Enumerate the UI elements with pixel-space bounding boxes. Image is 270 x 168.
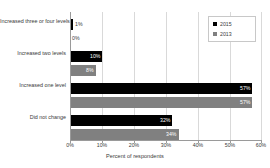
bar-row-2015: 10% <box>70 51 262 62</box>
bar-2013-3 <box>70 129 179 140</box>
bar-2015-2 <box>70 83 252 94</box>
category-label-0: Increased three or four levels <box>0 18 66 24</box>
x-tick-label-0: 0% <box>66 142 74 148</box>
bar-row-2013: 34% <box>70 129 262 140</box>
y-axis-line <box>70 12 71 140</box>
bar-row-2015: 32% <box>70 115 262 126</box>
bar-row-2013: 8% <box>70 65 262 76</box>
bar-value-2015-2: 57% <box>240 83 250 94</box>
bar-value-2013-0: 0% <box>72 33 80 44</box>
legend-label-2015: 2015 <box>220 20 232 28</box>
x-tick-label-2: 20% <box>129 142 139 148</box>
x-tick-label-1: 10% <box>97 142 107 148</box>
x-axis-title: Percent of respondents <box>0 153 270 159</box>
x-tick-label-3: 30% <box>161 142 171 148</box>
bar-group-1: 10% 8% <box>70 48 262 80</box>
legend-item-2013[interactable]: 2013 <box>213 30 251 38</box>
legend: 2015 2013 <box>208 16 256 42</box>
category-label-2: Increased one level <box>0 82 66 88</box>
legend-swatch-icon-2015 <box>213 22 217 26</box>
bar-chart: 1% 0% 10% 8% 57% <box>0 0 270 168</box>
bar-value-2013-2: 57% <box>240 97 250 108</box>
category-label-3: Did not change <box>0 114 66 120</box>
legend-item-2015[interactable]: 2015 <box>213 20 251 28</box>
bar-2013-2 <box>70 97 252 108</box>
x-tick-label-4: 40% <box>193 142 203 148</box>
bar-value-2015-0: 1% <box>75 19 83 30</box>
legend-label-2013: 2013 <box>220 30 232 38</box>
bar-value-2013-1: 8% <box>86 65 94 76</box>
bar-2015-3 <box>70 115 172 126</box>
bar-row-2013: 57% <box>70 97 262 108</box>
x-tick-label-5: 50% <box>225 142 235 148</box>
bar-value-2015-1: 10% <box>90 51 100 62</box>
category-label-1: Increased two levels <box>0 50 66 56</box>
bar-group-2: 57% 57% <box>70 80 262 112</box>
bar-value-2013-3: 34% <box>166 129 176 140</box>
bar-row-2015: 57% <box>70 83 262 94</box>
bar-value-2015-3: 32% <box>160 115 170 126</box>
legend-swatch-icon-2013 <box>213 32 217 36</box>
x-tick-label-6: 60% <box>256 142 266 148</box>
